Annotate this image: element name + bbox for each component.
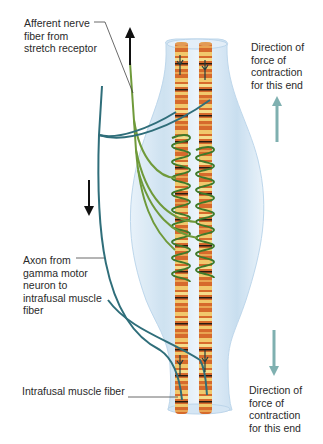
arrow-down-icon [269, 366, 279, 376]
label-direction-force-top: Direction of force of contraction for th… [251, 41, 304, 91]
spindle-capsule [130, 39, 263, 413]
label-intrafusal-muscle-fiber: Intrafusal muscle fiber [22, 385, 125, 398]
label-direction-force-bottom: Direction of force of contraction for th… [249, 384, 302, 434]
muscle-spindle-diagram: Afferent nerve fiber from stretch recept… [0, 0, 323, 444]
arrow-up-icon [125, 27, 135, 38]
arrow-down-icon [84, 206, 94, 216]
label-gamma-motor-axon: Axon from gamma motor neuron to intrafus… [23, 254, 102, 317]
arrow-up-icon [272, 96, 282, 106]
label-afferent-nerve-fiber: Afferent nerve fiber from stretch recept… [24, 17, 97, 55]
